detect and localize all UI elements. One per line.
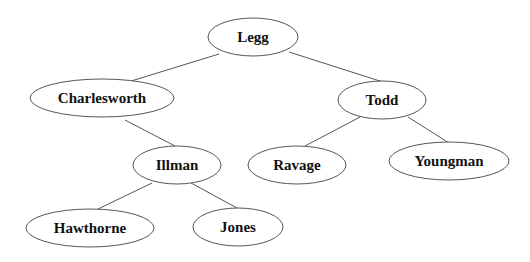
edge-illman-hawthorne xyxy=(98,183,152,209)
edge-todd-youngman xyxy=(408,117,449,143)
edge-todd-ravage xyxy=(305,117,360,146)
node-label: Hawthorne xyxy=(54,220,127,236)
node-label: Ravage xyxy=(273,157,321,173)
node-label: Youngman xyxy=(414,153,484,169)
node-label: Legg xyxy=(237,29,269,45)
tree-diagram: LeggCharlesworthToddIllmanRavageYoungman… xyxy=(0,0,530,262)
node-label: Jones xyxy=(220,219,256,235)
node-youngman: Youngman xyxy=(389,142,509,180)
node-legg: Legg xyxy=(208,18,298,56)
node-charlesworth: Charlesworth xyxy=(30,79,174,117)
node-jones: Jones xyxy=(193,208,283,246)
nodes-group: LeggCharlesworthToddIllmanRavageYoungman… xyxy=(26,18,509,247)
node-label: Todd xyxy=(366,92,399,108)
node-ravage: Ravage xyxy=(248,146,346,184)
tree-svg: LeggCharlesworthToddIllmanRavageYoungman… xyxy=(0,0,530,262)
edge-legg-charlesworth xyxy=(128,54,219,82)
node-illman: Illman xyxy=(133,146,221,184)
edge-illman-jones xyxy=(191,183,237,208)
node-todd: Todd xyxy=(338,81,426,119)
edges-group xyxy=(98,52,449,209)
node-label: Charlesworth xyxy=(58,90,147,106)
node-label: Illman xyxy=(156,157,199,173)
edge-charlesworth-illman xyxy=(125,120,175,146)
edge-legg-todd xyxy=(289,52,383,82)
node-hawthorne: Hawthorne xyxy=(26,209,154,247)
